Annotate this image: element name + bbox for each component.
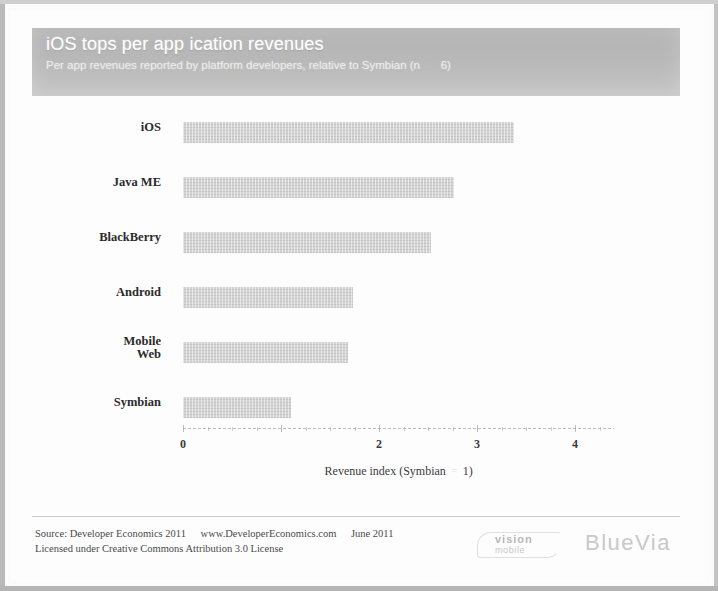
- visionmobile-logo: vision mobile: [477, 532, 563, 560]
- footer-divider: [32, 516, 680, 517]
- x-tick-minor: [355, 427, 356, 431]
- x-tick-minor: [404, 427, 405, 431]
- subtitle-text-before: Per app revenues reported by platform de…: [46, 59, 420, 71]
- bar-ios: [183, 122, 514, 143]
- x-tick-label-0: 0: [180, 437, 186, 452]
- x-axis-line: [183, 428, 614, 429]
- x-tick-minor: [257, 427, 258, 431]
- chart-plot-area: iOS Java ME BlackBerry Android MobileWeb…: [11, 96, 705, 516]
- page-title: iOS tops per app ication revenues: [46, 34, 324, 55]
- x-tick-major: [183, 425, 184, 432]
- bar-series: [11, 96, 705, 436]
- footer-line-license: Licensed under Creative Commons Attribut…: [35, 541, 505, 556]
- x-tick-label-2: 2: [376, 437, 382, 452]
- footer-source-text: Source: Developer Economics 2011: [35, 528, 186, 539]
- subtitle-text-after: 6): [441, 59, 451, 71]
- x-tick-major: [575, 425, 576, 432]
- bar-android: [183, 287, 353, 308]
- x-tick-major: [281, 425, 282, 432]
- x-tick-minor: [428, 427, 429, 431]
- x-tick-minor: [306, 427, 307, 431]
- x-tick-minor: [526, 427, 527, 431]
- footer-date: June 2011: [351, 528, 393, 539]
- footer-gap: [186, 528, 201, 539]
- x-tick-minor: [551, 427, 552, 431]
- scanned-slide-page: iOS tops per app ication revenues Per ap…: [0, 0, 718, 591]
- bluevia-logo: BlueVia: [585, 530, 671, 556]
- x-tick-major: [379, 425, 380, 432]
- bar-mobile-web: [183, 342, 348, 363]
- axis-title-before: Revenue index (Symbian: [325, 464, 446, 478]
- x-tick-minor: [232, 427, 233, 431]
- page-subtitle: Per app revenues reported by platform de…: [46, 59, 451, 71]
- bar-symbian: [183, 397, 291, 418]
- scan-edge-top: [0, 0, 718, 4]
- logo-area: vision mobile BlueVia: [477, 530, 687, 572]
- axis-title-after: 1): [463, 464, 473, 478]
- x-axis-title: Revenue index (Symbian=1): [183, 464, 614, 479]
- scan-edge-bottom: [0, 586, 718, 591]
- bluevia-text: BlueVia: [585, 530, 671, 555]
- visionmobile-word-vision: vision: [495, 533, 533, 545]
- header-band: iOS tops per app ication revenues Per ap…: [32, 28, 680, 96]
- axis-title-equals-faded: =: [446, 464, 463, 478]
- x-tick-minor: [208, 427, 209, 431]
- x-tick-minor: [453, 427, 454, 431]
- scan-edge-left: [0, 0, 5, 591]
- footer-gap-2: [336, 528, 351, 539]
- footer-url[interactable]: www.DeveloperEconomics.com: [201, 528, 337, 539]
- x-tick-major: [477, 425, 478, 432]
- subtitle-equals-faded: =: [420, 59, 441, 71]
- bar-java-me: [183, 177, 454, 198]
- x-tick-label-3: 3: [474, 437, 480, 452]
- bar-blackberry: [183, 232, 431, 253]
- x-tick-minor: [330, 427, 331, 431]
- footer-line-source: Source: Developer Economics 2011 www.Dev…: [35, 526, 505, 541]
- x-tick-label-4: 4: [572, 437, 578, 452]
- x-tick-minor: [600, 427, 601, 431]
- footer: Source: Developer Economics 2011 www.Dev…: [35, 526, 505, 556]
- slide: iOS tops per app ication revenues Per ap…: [11, 10, 705, 581]
- visionmobile-word-mobile: mobile: [495, 545, 525, 555]
- x-tick-minor: [502, 427, 503, 431]
- scan-edge-right: [714, 0, 718, 591]
